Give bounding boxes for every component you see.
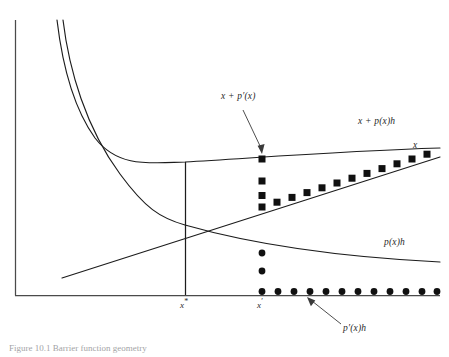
annotation-arrow-top [243, 110, 265, 154]
diagonal-square-markers [259, 151, 431, 211]
baseline-circle-row [259, 288, 441, 295]
axis-tick-x-star-sup: * [184, 297, 188, 306]
dotted-column-circles [259, 250, 266, 275]
figure-container: x + p′(x) x + p(x)h x p(x)h p′(x)h x* x′… [0, 0, 449, 357]
plot-axes [15, 20, 440, 296]
label-lower-curve: p(x)h [384, 238, 405, 248]
label-diagonal-line: x [413, 141, 417, 151]
axis-tick-x-star: x* [180, 298, 188, 310]
label-bottom-annotation: p′(x)h [343, 324, 366, 334]
axis-tick-x-prime: x′ [257, 298, 263, 310]
label-upper-curve: x + p(x)h [358, 117, 395, 127]
line-x-diagonal [62, 157, 440, 278]
figure-caption: Figure 10.1 Barrier function geometry [9, 343, 147, 357]
annotation-arrow-bottom [307, 297, 341, 324]
dotted-column-squares [259, 156, 266, 200]
curve-px-h [63, 20, 440, 262]
label-top-annotation: x + p′(x) [221, 92, 256, 102]
figure-canvas [0, 0, 449, 357]
axis-tick-x-prime-sup: ′ [261, 297, 263, 306]
